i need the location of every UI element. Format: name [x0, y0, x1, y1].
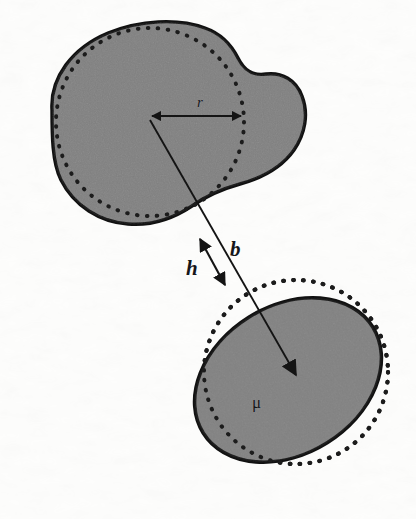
label-radius-r: r [197, 95, 203, 110]
label-gap-h: h [186, 258, 198, 279]
diagram-canvas: r b h μ [0, 0, 416, 519]
label-measure-mu: μ [252, 394, 261, 411]
diagram-svg [0, 0, 416, 519]
label-distance-b: b [230, 239, 241, 260]
